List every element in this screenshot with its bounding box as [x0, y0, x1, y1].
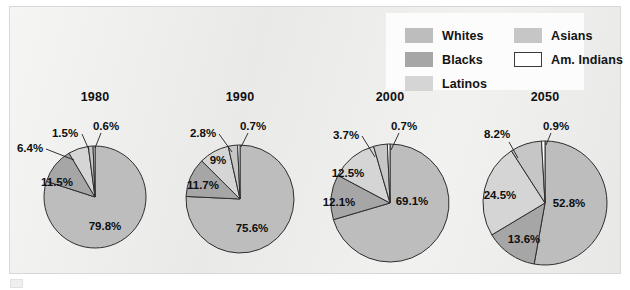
pie-slice-percent-label: 6.4%: [17, 142, 43, 154]
legend-swatch-icon: [405, 76, 433, 91]
legend-item-blacks: Blacks: [405, 52, 483, 67]
pie-slice-percent-label: 3.7%: [333, 129, 359, 141]
legend: WhitesBlacksLatinosAsiansAm. Indians: [386, 13, 584, 90]
pie-slice-percent-label: 11.5%: [41, 176, 73, 188]
legend-item-asians: Asians: [514, 28, 593, 43]
legend-item-label: Am. Indians: [551, 53, 623, 67]
legend-item-label: Blacks: [442, 53, 483, 67]
pie-slice-percent-label: 13.6%: [508, 233, 541, 245]
pie-title-1980: 1980: [81, 90, 110, 104]
pie-slice-percent-label: 9%: [210, 154, 227, 166]
legend-item-label: Asians: [551, 29, 593, 43]
legend-swatch-icon: [514, 28, 542, 43]
legend-item-label: Whites: [442, 29, 484, 43]
pie-slice-percent-label: 12.1%: [323, 196, 356, 208]
pie-slice-percent-label: 24.5%: [484, 189, 517, 201]
legend-item-label: Latinos: [442, 77, 487, 91]
legend-item-whites: Whites: [405, 28, 484, 43]
legend-swatch-icon: [405, 28, 433, 43]
pie-chart-2000: 69.1%12.1%12.5%3.7%0.7%: [323, 120, 449, 262]
pie-slice-percent-label: 8.2%: [484, 128, 510, 140]
pie-slice-percent-label: 2.8%: [190, 127, 216, 139]
pie-slice-percent-label: 0.7%: [240, 120, 266, 132]
pie-slice-percent-label: 0.7%: [391, 120, 417, 132]
figure-root: 79.8%11.5%6.4%1.5%0.6%75.6%11.7%9%2.8%0.…: [0, 0, 630, 290]
pie-chart-1990: 75.6%11.7%9%2.8%0.7%: [186, 120, 294, 253]
pie-slice-percent-label: 79.8%: [89, 220, 122, 232]
legend-item-latinos: Latinos: [405, 76, 487, 91]
pie-slice-percent-label: 0.9%: [543, 120, 569, 132]
pie-slice-percent-label: 1.5%: [52, 127, 78, 139]
legend-item-am-indians: Am. Indians: [514, 52, 623, 67]
pie-title-1990: 1990: [226, 90, 255, 104]
pie-chart-2050: 52.8%13.6%24.5%8.2%0.9%: [483, 120, 607, 265]
legend-swatch-icon: [514, 52, 542, 67]
corner-mark: [10, 279, 23, 288]
pie-title-2000: 2000: [376, 90, 405, 104]
pie-slice-percent-label: 75.6%: [236, 222, 269, 234]
pie-slice-percent-label: 69.1%: [396, 195, 429, 207]
pie-slice-percent-label: 52.8%: [553, 197, 586, 209]
pie-title-2050: 2050: [531, 90, 560, 104]
legend-swatch-icon: [405, 52, 433, 67]
pie-chart-1980: 79.8%11.5%6.4%1.5%0.6%: [17, 120, 146, 248]
pie-slice-percent-label: 0.6%: [93, 120, 119, 132]
legend-items-group: WhitesBlacksLatinosAsiansAm. Indians: [386, 13, 584, 90]
pie-slice-percent-label: 12.5%: [332, 167, 365, 179]
pie-slice-percent-label: 11.7%: [187, 179, 219, 191]
